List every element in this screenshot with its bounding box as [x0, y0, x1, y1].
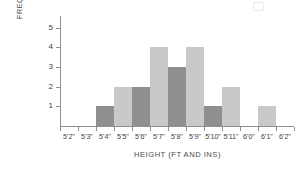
y-axis-title: FREQUENCY	[14, 0, 26, 40]
x-tick	[150, 127, 151, 131]
y-tick	[56, 28, 60, 29]
x-tick	[240, 127, 241, 131]
y-tick-label: 5	[40, 24, 53, 32]
bar	[204, 106, 222, 126]
histogram-chart: FREQUENCY 12345 5'2"5'3"5'4"5'5"5'6"5'7"…	[0, 0, 302, 171]
y-tick-label: 1	[40, 102, 53, 110]
y-axis-line	[60, 16, 61, 126]
x-tick	[78, 127, 79, 131]
x-tick	[168, 127, 169, 131]
x-tick	[186, 127, 187, 131]
y-tick-label: 2	[40, 83, 53, 91]
x-tick	[96, 127, 97, 131]
x-tick	[222, 127, 223, 131]
x-tick	[60, 127, 61, 131]
y-tick	[56, 67, 60, 68]
plot-area: 12345 5'2"5'3"5'4"5'5"5'6"5'7"5'8"5'9"5'…	[60, 16, 294, 126]
bar	[222, 87, 240, 126]
x-tick-label: 6'2"	[272, 133, 298, 141]
bar	[186, 47, 204, 126]
x-tick	[114, 127, 115, 131]
x-tick	[258, 127, 259, 131]
bar	[114, 87, 132, 126]
bar	[168, 67, 186, 126]
x-tick	[204, 127, 205, 131]
y-tick-label: 3	[40, 63, 53, 71]
bar	[132, 87, 150, 126]
y-tick	[56, 106, 60, 107]
x-tick	[294, 127, 295, 131]
x-axis-title: HEIGHT (FT AND INS)	[60, 150, 295, 159]
bar	[258, 106, 276, 126]
bar	[96, 106, 114, 126]
bar	[150, 47, 168, 126]
x-tick	[132, 127, 133, 131]
y-tick	[56, 87, 60, 88]
y-tick-label: 4	[40, 43, 53, 51]
x-tick	[276, 127, 277, 131]
y-tick	[56, 47, 60, 48]
scan-artifact-icon	[253, 2, 264, 11]
